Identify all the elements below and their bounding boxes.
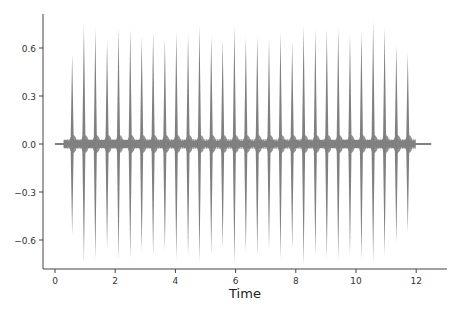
peak-positive: [82, 24, 85, 144]
peak-positive: [129, 29, 132, 144]
peak-positive: [221, 38, 224, 144]
peak-positive: [244, 37, 247, 144]
peak-positive: [314, 29, 317, 144]
peak-negative: [117, 144, 120, 261]
peak-negative: [140, 144, 143, 253]
peak-negative: [314, 144, 317, 256]
peak-positive: [163, 38, 166, 144]
x-tick-label: 12: [410, 276, 421, 286]
peak-positive: [94, 29, 97, 144]
x-axis-label: Time: [228, 286, 261, 301]
peak-negative: [267, 144, 270, 250]
peak-positive: [395, 45, 398, 144]
peak-positive: [302, 26, 305, 144]
peak-negative: [198, 144, 201, 262]
y-tick-label: −0.3: [14, 188, 36, 198]
peak-negative: [406, 144, 409, 232]
peak-positive: [198, 26, 201, 144]
x-tick-label: 10: [350, 276, 362, 286]
x-tick-label: 6: [233, 276, 239, 286]
x-tick-label: 8: [293, 276, 299, 286]
peak-positive: [186, 34, 189, 144]
peak-positive: [117, 27, 120, 144]
y-tick-label: 0.6: [22, 44, 37, 54]
peak-negative: [94, 144, 97, 259]
peak-negative: [221, 144, 224, 250]
peak-negative: [210, 144, 213, 254]
peak-positive: [291, 42, 294, 144]
peak-positive: [406, 53, 409, 144]
peak-negative: [256, 144, 259, 256]
peak-positive: [210, 35, 213, 144]
waveform-chart: 0.60.30.0−0.3−0.6 024681012 Time: [0, 0, 458, 313]
peak-positive: [105, 40, 108, 144]
peak-negative: [129, 144, 132, 259]
peak-negative: [233, 144, 236, 264]
peak-negative: [383, 144, 386, 256]
peak-positive: [337, 27, 340, 144]
peak-positive: [279, 32, 282, 144]
peak-positive: [152, 32, 155, 144]
peak-negative: [372, 144, 375, 262]
peak-negative: [244, 144, 247, 253]
peak-negative: [279, 144, 282, 259]
peak-negative: [175, 144, 178, 259]
peak-negative: [105, 144, 108, 250]
x-tick-label: 0: [52, 276, 58, 286]
peak-negative: [337, 144, 340, 261]
peak-negative: [186, 144, 189, 256]
peak-positive: [348, 34, 351, 144]
peak-negative: [82, 144, 85, 262]
peak-negative: [348, 144, 351, 256]
peak-negative: [152, 144, 155, 256]
y-axis-ticks: 0.60.30.0−0.3−0.6: [14, 44, 43, 246]
peak-positive: [71, 54, 74, 144]
y-tick-label: −0.6: [14, 236, 36, 246]
peak-positive: [140, 37, 143, 144]
peak-positive: [267, 38, 270, 144]
peak-positive: [372, 21, 375, 144]
peak-positive: [360, 30, 363, 144]
peak-negative: [325, 144, 328, 259]
x-axis-ticks: 024681012: [52, 269, 422, 286]
peak-positive: [256, 35, 259, 144]
peak-positive: [233, 26, 236, 144]
peak-negative: [71, 144, 74, 235]
peak-negative: [360, 144, 363, 261]
peak-positive: [325, 29, 328, 144]
y-tick-label: 0.3: [22, 92, 36, 102]
peak-positive: [383, 27, 386, 144]
x-tick-label: 4: [173, 276, 179, 286]
peak-positive: [175, 32, 178, 144]
peak-negative: [395, 144, 398, 243]
peak-negative: [291, 144, 294, 250]
x-tick-label: 2: [112, 276, 118, 286]
y-tick-label: 0.0: [22, 140, 37, 150]
peak-negative: [163, 144, 166, 251]
peak-negative: [302, 144, 305, 266]
